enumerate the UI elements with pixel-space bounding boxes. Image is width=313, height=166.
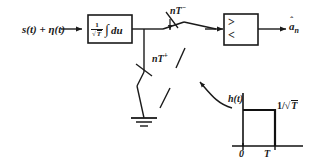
impulse-response-label: h(t): [228, 94, 243, 104]
input-signal-term: s(t): [22, 23, 37, 35]
output-symbol-wrap: ˆa: [289, 21, 295, 32]
comparator-expression: > <: [228, 16, 235, 41]
input-noise-term: η(t): [48, 23, 64, 35]
dump-switch-label: nT+: [152, 53, 168, 64]
greater-than-glyph: >: [228, 16, 235, 29]
sample-switch-base: nT: [170, 5, 182, 16]
sample-switch-superscript: −: [182, 4, 186, 12]
ground-symbol: [131, 118, 157, 126]
amplitude-radicand: T: [291, 100, 298, 111]
integral-sign: ∫: [105, 23, 109, 37]
input-plus-sign: +: [39, 23, 45, 35]
gain-denominator: √T: [91, 30, 103, 38]
output-subscript: n: [295, 26, 299, 35]
gain-radicand: T: [97, 30, 102, 38]
integrator-expression: 1 √T ∫ du: [91, 22, 123, 38]
block-diagram-canvas: s(t) + η(t) 1 √T ∫ du > < nT− nT+ ˆa n h…: [0, 0, 313, 166]
integration-differential: du: [111, 25, 123, 36]
dump-switch-base: nT: [152, 53, 164, 64]
plot-xtick-origin: 0: [239, 149, 244, 159]
input-signal-label: s(t) + η(t): [22, 24, 65, 35]
dump-switch: [136, 64, 152, 118]
output-decision-label: ˆa n: [289, 21, 299, 35]
integrator-output-wire: [132, 29, 163, 72]
integrator-gain-fraction: 1 √T: [91, 22, 103, 38]
plot-xtick-end: T: [264, 149, 270, 159]
dump-switch-superscript: +: [164, 52, 168, 60]
gain-numerator: 1: [91, 22, 103, 30]
less-than-glyph: <: [228, 29, 235, 42]
sample-switch-label: nT−: [170, 5, 186, 16]
plot-amplitude-label: 1/√T: [277, 100, 298, 111]
output-hat-accent: ˆ: [290, 16, 293, 25]
